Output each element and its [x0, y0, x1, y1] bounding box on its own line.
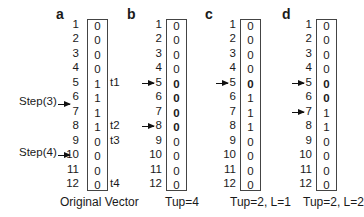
vector-value: 0 — [240, 62, 261, 76]
step-label: Step(3) — [19, 94, 57, 108]
vector-value: 0 — [166, 48, 187, 62]
row-index: 6 — [214, 89, 236, 103]
row-index: 4 — [290, 60, 312, 74]
row-index: 6 — [140, 89, 162, 103]
vector-value: 0 — [166, 19, 187, 33]
row-index: 2 — [140, 31, 162, 45]
vector-value: 0 — [87, 33, 108, 47]
vector-value: 0 — [316, 48, 337, 62]
vector-value: 0 — [87, 135, 108, 149]
panel-letter: b — [127, 6, 136, 22]
vector-value: 1 — [316, 120, 337, 134]
threshold-label: t4 — [110, 176, 120, 190]
row-index: 10 — [214, 147, 236, 161]
panel-caption: Original Vector — [60, 195, 139, 209]
vector-value: 0 — [316, 178, 337, 192]
vector-value: 0 — [87, 164, 108, 178]
row-index: 8 — [57, 118, 79, 132]
threshold-label: t1 — [110, 75, 120, 89]
row-index: 8 — [290, 118, 312, 132]
vector-value: 0 — [166, 106, 187, 120]
vector-value: 0 — [166, 62, 187, 76]
row-index: 10 — [290, 147, 312, 161]
vector-value: 0 — [166, 33, 187, 47]
vector-value: 0 — [240, 77, 261, 91]
vector-value: 1 — [240, 120, 261, 134]
row-index: 3 — [140, 46, 162, 60]
arrow-icon — [216, 83, 228, 84]
vector-value: 0 — [87, 149, 108, 163]
vector-value: 1 — [87, 77, 108, 91]
row-index: 8 — [214, 118, 236, 132]
row-index: 9 — [140, 133, 162, 147]
row-index: 9 — [214, 133, 236, 147]
vector-value: 0 — [240, 48, 261, 62]
arrow-icon — [292, 83, 304, 84]
row-index: 7 — [140, 104, 162, 118]
row-index: 10 — [140, 147, 162, 161]
vector-value: 0 — [240, 135, 261, 149]
row-index: 11 — [214, 162, 236, 176]
arrow-icon — [142, 126, 154, 127]
vector-value: 0 — [240, 149, 261, 163]
row-index: 12 — [140, 176, 162, 190]
vector-value: 0 — [316, 62, 337, 76]
row-index: 3 — [214, 46, 236, 60]
vector-value: 1 — [87, 91, 108, 105]
panel-caption: Tup=2, L=1 — [230, 195, 291, 209]
row-index: 2 — [214, 31, 236, 45]
vector-value: 0 — [316, 149, 337, 163]
row-index: 11 — [290, 162, 312, 176]
vector-value: 0 — [316, 77, 337, 91]
vector-value: 0 — [166, 77, 187, 91]
row-index: 12 — [290, 176, 312, 190]
vector-value: 0 — [240, 19, 261, 33]
row-index: 5 — [57, 75, 79, 89]
vector-value: 0 — [316, 135, 337, 149]
row-index: 7 — [214, 104, 236, 118]
vector-value: 0 — [87, 178, 108, 192]
vector-value: 0 — [166, 164, 187, 178]
threshold-label: t2 — [110, 118, 120, 132]
row-index: 4 — [57, 60, 79, 74]
row-index: 9 — [57, 133, 79, 147]
vector-value: 0 — [166, 120, 187, 134]
vector-value: 0 — [87, 62, 108, 76]
vector-value: 0 — [316, 91, 337, 105]
panel-caption: Tup=2, L=2 — [303, 195, 364, 209]
vector-value: 0 — [166, 149, 187, 163]
vector-value: 0 — [240, 33, 261, 47]
row-index: 11 — [140, 162, 162, 176]
row-index: 12 — [57, 176, 79, 190]
vector-value: 0 — [87, 48, 108, 62]
row-index: 1 — [57, 17, 79, 31]
vector-value: 0 — [87, 19, 108, 33]
vector-value: 1 — [87, 106, 108, 120]
row-index: 3 — [57, 46, 79, 60]
vector-value: 0 — [166, 135, 187, 149]
row-index: 1 — [214, 17, 236, 31]
vector-value: 0 — [240, 178, 261, 192]
row-index: 2 — [290, 31, 312, 45]
vector-value: 0 — [316, 33, 337, 47]
row-index: 4 — [214, 60, 236, 74]
vector-value: 1 — [316, 106, 337, 120]
vector-value: 0 — [240, 164, 261, 178]
step-arrow-icon — [58, 155, 70, 156]
row-index: 11 — [57, 162, 79, 176]
vector-value: 0 — [166, 178, 187, 192]
panel-caption: Tup=4 — [165, 195, 199, 209]
vector-value: 1 — [87, 120, 108, 134]
row-index: 2 — [57, 31, 79, 45]
step-arrow-icon — [58, 104, 70, 105]
threshold-label: t3 — [110, 133, 120, 147]
panel-letter: c — [205, 6, 213, 22]
arrow-icon — [142, 83, 154, 84]
row-index: 6 — [290, 89, 312, 103]
vector-value: 0 — [316, 19, 337, 33]
row-index: 3 — [290, 46, 312, 60]
row-index: 4 — [140, 60, 162, 74]
row-index: 9 — [290, 133, 312, 147]
row-index: 12 — [214, 176, 236, 190]
row-index: 1 — [290, 17, 312, 31]
